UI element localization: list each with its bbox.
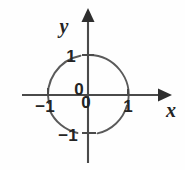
origin-label-secondary: 0 <box>81 93 90 112</box>
unit-circle-figure: y x 1 −1 1 −1 0 0 <box>0 0 185 170</box>
y-axis-tick-label-negative-one: −1 <box>58 126 77 145</box>
x-axis-tick-label-negative-one: −1 <box>35 97 54 116</box>
y-axis-tick-label-positive-one: 1 <box>66 47 75 66</box>
coordinate-plane-svg: y x 1 −1 1 −1 0 0 <box>0 0 185 170</box>
x-axis-label: x <box>165 99 176 121</box>
x-axis-tick-label-positive-one: 1 <box>123 97 132 116</box>
y-axis-arrow-icon <box>82 8 95 22</box>
y-axis-label: y <box>58 15 69 38</box>
